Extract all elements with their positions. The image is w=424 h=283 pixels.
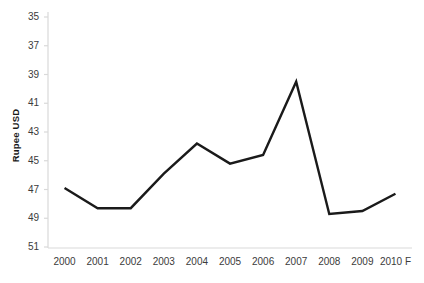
y-tick-label: 39	[19, 70, 39, 80]
y-tick-label: 35	[19, 12, 39, 22]
y-tick-label: 43	[19, 127, 39, 137]
y-tick-label: 45	[19, 156, 39, 166]
line-chart: Rupee USD 353739414345474951 20002001200…	[0, 0, 424, 283]
y-tick-label: 49	[19, 213, 39, 223]
data-series-line	[65, 82, 396, 214]
y-tick-label: 47	[19, 185, 39, 195]
y-tick-label: 41	[19, 98, 39, 108]
x-tick-label: 2010 F	[371, 257, 419, 267]
plot-area	[0, 0, 424, 283]
y-tick-label: 37	[19, 41, 39, 51]
y-tick-label: 51	[19, 242, 39, 252]
